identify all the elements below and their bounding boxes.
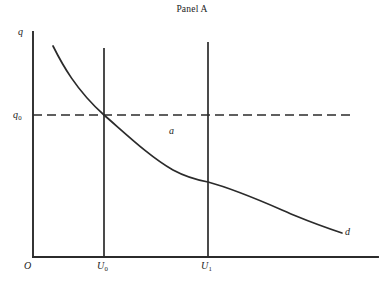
- figure-panel-a: Panel A q q0 O U0 U1 a d: [0, 0, 384, 281]
- q0-subscript: 0: [18, 114, 21, 121]
- y-axis-label: q: [18, 27, 23, 37]
- region-label-a: a: [169, 126, 174, 136]
- plot-canvas: [0, 0, 384, 281]
- u1-subscript: 1: [209, 265, 212, 272]
- u1-base: U: [201, 260, 208, 271]
- q0-axis-label: q0: [13, 110, 21, 120]
- u1-axis-label: U1: [201, 261, 212, 271]
- u0-base: U: [97, 260, 104, 271]
- u0-axis-label: U0: [97, 261, 108, 271]
- curve-label-d: d: [345, 227, 350, 237]
- demand-curve-d: [53, 46, 342, 233]
- u0-subscript: 0: [105, 265, 108, 272]
- origin-label: O: [24, 261, 31, 271]
